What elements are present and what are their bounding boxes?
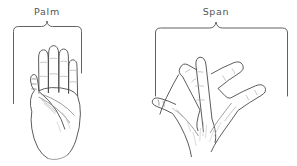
span-panel: Span (152, 6, 287, 157)
span-hand-drawing (152, 57, 265, 157)
span-measure-bracket (156, 22, 288, 96)
hand-measurement-figure: Palm (0, 0, 297, 166)
palm-hand-drawing (30, 46, 80, 160)
palm-measure-bracket (14, 21, 82, 104)
palm-label: Palm (34, 6, 60, 17)
span-label: Span (203, 6, 230, 17)
palm-panel: Palm (14, 6, 82, 160)
